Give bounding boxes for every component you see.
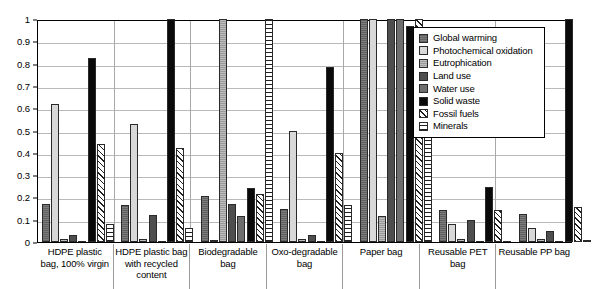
x-axis-label: HDPE plastic bag with recycled content (113, 244, 190, 289)
bar (439, 210, 447, 242)
y-tick-label: 0 (25, 238, 30, 248)
bar (130, 124, 138, 242)
legend-item: Eutrophication (419, 57, 540, 70)
legend-item: Photochemical oxidation (419, 45, 540, 58)
bar (97, 144, 105, 242)
bar (265, 19, 273, 242)
chart-legend: Global warmingPhotochemical oxidationEut… (413, 27, 545, 138)
legend-label: Photochemical oxidation (433, 46, 533, 56)
legend-swatch-icon (419, 72, 428, 81)
bar (387, 19, 395, 242)
legend-label: Minerals (433, 121, 468, 131)
bar (528, 228, 536, 242)
bar (51, 104, 59, 242)
bar (476, 241, 484, 242)
bar-group (197, 21, 277, 242)
bar (167, 19, 175, 242)
bar (228, 204, 236, 242)
legend-swatch-icon (419, 59, 428, 68)
y-tick-label: 0.6 (17, 104, 30, 114)
bar (42, 204, 50, 242)
bar (396, 19, 404, 242)
bar (378, 216, 386, 242)
bar (503, 241, 511, 242)
legend-label: Global warming (433, 33, 497, 43)
y-axis: 10.90.80.70.60.50.40.30.20.10 (0, 20, 30, 243)
bar (256, 194, 264, 242)
legend-item: Fossil fuels (419, 108, 540, 121)
legend-swatch-icon (419, 97, 428, 106)
bar (494, 210, 502, 242)
bar (555, 241, 563, 242)
legend-item: Global warming (419, 32, 540, 45)
bar (280, 209, 288, 242)
x-axis-label: Oxo-degradable bag (266, 244, 343, 289)
bar (369, 19, 377, 242)
legend-label: Land use (433, 71, 471, 81)
bar (185, 228, 193, 242)
y-tick-label: 0.7 (17, 82, 30, 92)
legend-label: Solid waste (433, 96, 480, 106)
bar (210, 240, 218, 242)
legend-swatch-icon (419, 84, 428, 93)
bar (158, 241, 166, 242)
y-tick-label: 0.4 (17, 149, 30, 159)
legend-swatch-icon (419, 122, 428, 131)
x-axis-category-labels: HDPE plastic bag, 100% virginHDPE plasti… (37, 244, 572, 289)
y-tick-label: 0.3 (17, 171, 30, 181)
x-axis-label: HDPE plastic bag, 100% virgin (37, 244, 113, 289)
bar (60, 239, 68, 242)
bar (247, 188, 255, 242)
bar (139, 239, 147, 242)
bar (344, 205, 352, 242)
bar (121, 205, 129, 242)
bar (149, 215, 157, 242)
bar (298, 239, 306, 242)
bar (485, 187, 493, 242)
bar (360, 19, 368, 242)
x-axis-label: Reusable PP bag (495, 244, 572, 289)
y-tick-label: 0.1 (17, 216, 30, 226)
y-tick-label: 1 (25, 15, 30, 25)
bar-group (277, 21, 357, 242)
bar (317, 241, 325, 242)
bar (201, 196, 209, 242)
bar (335, 153, 343, 242)
bar (78, 241, 86, 242)
legend-item: Solid waste (419, 95, 540, 108)
y-tick-label: 0.2 (17, 193, 30, 203)
legend-label: Fossil fuels (433, 109, 479, 119)
bar (289, 131, 297, 243)
legend-swatch-icon (419, 46, 428, 55)
legend-swatch-icon (419, 34, 428, 43)
bar (574, 207, 582, 242)
bar (326, 67, 334, 242)
legend-label: Eutrophication (433, 58, 492, 68)
bar (457, 239, 465, 242)
bar (546, 231, 554, 242)
legend-label: Water use (433, 84, 475, 94)
legend-swatch-icon (419, 109, 428, 118)
bar (219, 19, 227, 242)
legend-item: Water use (419, 82, 540, 95)
bar (176, 148, 184, 242)
bar (237, 216, 245, 242)
x-axis-label: Biodegradable bag (189, 244, 266, 289)
y-tick-label: 0.8 (17, 60, 30, 70)
x-axis-label: Paper bag (342, 244, 419, 289)
legend-item: Minerals (419, 120, 540, 133)
bar (88, 58, 96, 242)
bar (106, 224, 114, 242)
x-axis-label: Reusable PET bag (419, 244, 496, 289)
bar (69, 235, 77, 242)
bar (467, 220, 475, 242)
bar (519, 214, 527, 242)
bar (565, 19, 573, 242)
y-tick-label: 0.5 (17, 127, 30, 137)
bar (308, 235, 316, 242)
bar-group (118, 21, 198, 242)
legend-item: Land use (419, 70, 540, 83)
bar (583, 240, 591, 242)
bar (537, 239, 545, 242)
